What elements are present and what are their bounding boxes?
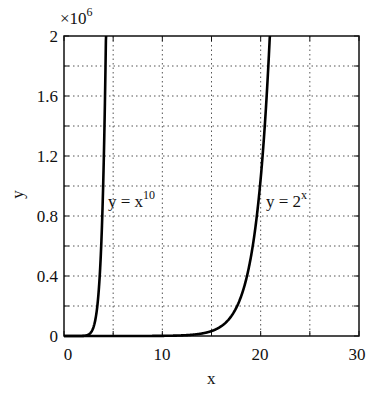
y-tick-1.2: 1.2 <box>18 148 58 165</box>
annotation-2x: y = 2x <box>266 193 307 210</box>
y-tick-1.6: 1.6 <box>18 88 58 105</box>
annotation-x10-base: y = x <box>108 192 143 211</box>
x-tick-0: 0 <box>53 346 83 363</box>
annotation-x10: y = x10 <box>108 193 155 210</box>
y-axis-label: y <box>9 190 26 199</box>
y-tick-2: 2 <box>18 28 58 45</box>
annotation-2x-exponent: x <box>301 188 307 202</box>
x-tick-20: 20 <box>245 346 275 363</box>
x-tick-10: 10 <box>147 346 177 363</box>
y-multiplier-label: ×106 <box>60 10 93 27</box>
multiplier-exponent: 6 <box>87 5 93 19</box>
annotation-2x-base: y = 2 <box>266 192 301 211</box>
series-2x-curve <box>64 36 270 336</box>
y-tick-0.8: 0.8 <box>18 208 58 225</box>
x-axis-label: x <box>207 370 216 387</box>
grid-lines <box>64 36 359 336</box>
y-tick-0: 0 <box>18 328 58 345</box>
multiplier-base: ×10 <box>60 9 87 28</box>
annotation-x10-exponent: 10 <box>143 188 155 202</box>
y-tick-0.4: 0.4 <box>18 268 58 285</box>
series-x10-curve <box>64 36 106 336</box>
x-tick-30: 30 <box>342 346 372 363</box>
